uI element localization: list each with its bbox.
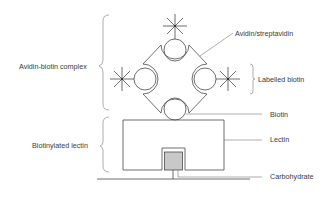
avidin-molecule xyxy=(143,45,207,113)
label-avidin-streptavidin: Avidin/streptavidin xyxy=(235,30,293,37)
avidin-binding-pockets xyxy=(143,45,207,113)
label-lectin: Lectin xyxy=(270,136,289,143)
label-carbohydrate: Carbohydrate xyxy=(270,173,314,180)
avidin-biotin-diagram: Avidin/streptavidin Labelled biotin Biot… xyxy=(0,0,335,210)
label-avidin-biotin-complex: Avidin-biotin complex xyxy=(19,63,87,70)
biotin-bottom xyxy=(164,98,186,120)
label-star-top xyxy=(163,14,187,39)
biotin-right xyxy=(194,68,216,90)
biotin-top xyxy=(164,39,186,61)
braces xyxy=(99,15,255,172)
biotin-left xyxy=(134,68,156,90)
label-star-right xyxy=(216,67,240,91)
label-star-left xyxy=(110,67,134,91)
label-biotinylated-lectin: Biotinylated lectin xyxy=(32,142,88,149)
label-biotin: Biotin xyxy=(270,111,288,118)
label-labelled-biotin: Labelled biotin xyxy=(258,76,304,83)
carbohydrate-square xyxy=(165,152,183,170)
biotin-circles xyxy=(134,39,216,120)
leader-lines xyxy=(178,33,262,177)
